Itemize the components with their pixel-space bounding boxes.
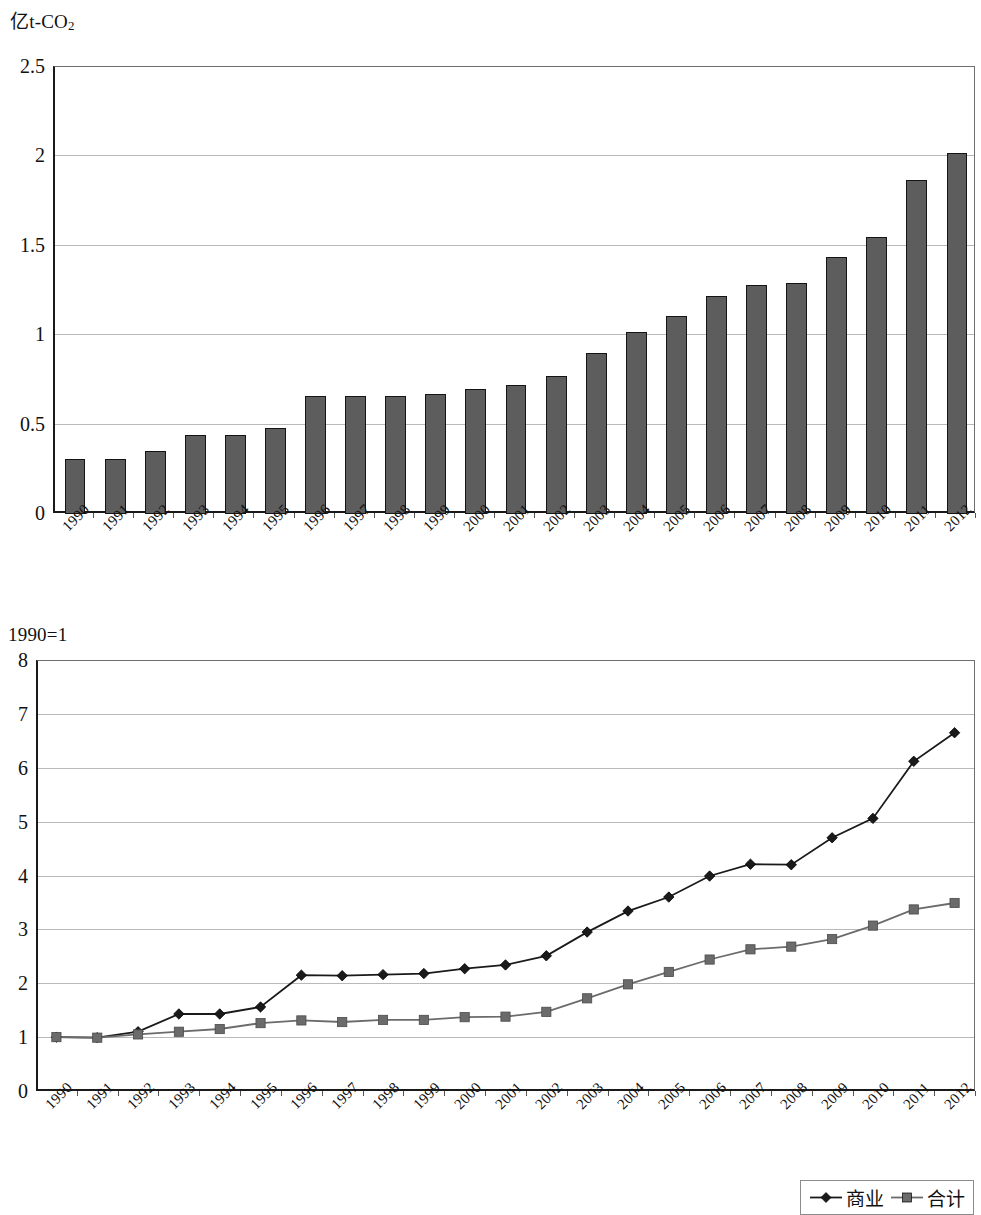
series-marker (787, 942, 796, 951)
series-marker (419, 968, 429, 978)
series-marker (704, 871, 714, 881)
series-marker (297, 1016, 306, 1025)
series-marker (52, 1033, 61, 1042)
series-marker (909, 905, 918, 914)
series-marker (215, 1009, 225, 1019)
series-marker (541, 951, 551, 961)
series-marker (419, 1015, 428, 1024)
series-marker (582, 927, 592, 937)
series-marker (500, 960, 510, 970)
series-marker (501, 1012, 510, 1021)
legend-label: 合计 (927, 1184, 965, 1211)
series-marker (338, 1017, 347, 1026)
series-marker (623, 906, 633, 916)
series-marker (378, 1015, 387, 1024)
series-marker (705, 955, 714, 964)
series-marker (583, 994, 592, 1003)
legend-item: 商业 (809, 1184, 884, 1211)
series-marker (745, 859, 755, 869)
series-marker (949, 728, 959, 738)
legend-square-icon (890, 1191, 924, 1204)
series-line (56, 733, 954, 1038)
series-marker (746, 945, 755, 954)
series-marker (827, 833, 837, 843)
series-marker (623, 980, 632, 989)
series-marker (950, 898, 959, 907)
series-marker (828, 934, 837, 943)
series-marker (460, 1013, 469, 1022)
series-marker (337, 971, 347, 981)
series-marker (174, 1027, 183, 1036)
series-marker (459, 964, 469, 974)
legend-label: 商业 (846, 1184, 884, 1211)
series-marker (664, 892, 674, 902)
series-marker (256, 1019, 265, 1028)
series-marker (378, 969, 388, 979)
series-marker (133, 1030, 142, 1039)
legend-diamond-icon (809, 1191, 843, 1204)
series-marker (868, 921, 877, 930)
line-chart-series-layer (0, 0, 981, 1215)
series-marker (93, 1033, 102, 1042)
legend-item: 合计 (890, 1184, 965, 1211)
series-marker (542, 1007, 551, 1016)
series-marker (664, 967, 673, 976)
series-marker (786, 860, 796, 870)
line-chart-legend: 商业合计 (800, 1180, 974, 1215)
series-marker (174, 1009, 184, 1019)
series-marker (215, 1024, 224, 1033)
